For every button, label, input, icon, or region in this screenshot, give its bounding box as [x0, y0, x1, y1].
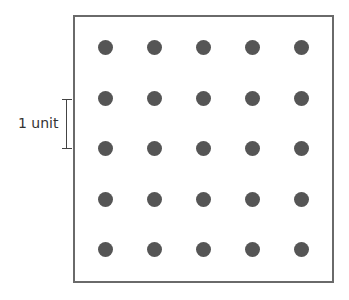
grid-dot	[245, 242, 260, 257]
grid-dot	[98, 242, 113, 257]
grid-dot	[147, 242, 162, 257]
grid-dot	[196, 192, 211, 207]
grid-dot	[294, 91, 309, 106]
grid-dot	[245, 141, 260, 156]
grid-dot	[196, 141, 211, 156]
grid-dot	[245, 192, 260, 207]
grid-dot	[294, 141, 309, 156]
grid-dot	[196, 40, 211, 55]
bracket-bottom-tick	[62, 148, 72, 149]
grid-dot	[98, 192, 113, 207]
grid-dot	[147, 40, 162, 55]
grid-dot	[294, 192, 309, 207]
grid-dot	[245, 91, 260, 106]
bracket-line	[66, 99, 67, 149]
grid-dot	[294, 40, 309, 55]
bracket-top-tick	[62, 99, 72, 100]
grid-dot	[98, 40, 113, 55]
unit-label: 1 unit	[18, 115, 58, 131]
unit-bracket	[62, 99, 72, 149]
grid-dot	[147, 91, 162, 106]
grid-dot	[98, 141, 113, 156]
grid-dot	[245, 40, 260, 55]
grid-dot	[196, 91, 211, 106]
grid-dot	[294, 242, 309, 257]
grid-dot	[98, 91, 113, 106]
grid-dot	[147, 141, 162, 156]
grid-dot	[196, 242, 211, 257]
grid-dot	[147, 192, 162, 207]
